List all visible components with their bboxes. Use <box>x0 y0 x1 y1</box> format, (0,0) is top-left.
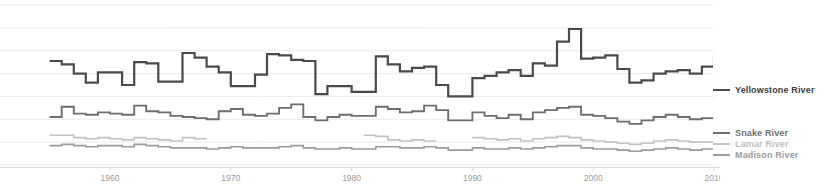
series-line-madison-river <box>50 144 713 151</box>
series-line-snake-river <box>50 104 713 124</box>
legend-label-madison-river: Madison River <box>735 150 798 160</box>
x-axis-canvas: 196019701980199020002010 <box>0 166 720 195</box>
x-tick-label-1970: 1970 <box>221 173 240 183</box>
legend-label-yellowstone-river: Yellowstone River <box>735 85 815 95</box>
legend-item-snake-river[interactable]: Snake River <box>713 128 788 138</box>
series-line-lamar-river <box>472 136 713 144</box>
legend-item-lamar-river[interactable]: Lamar River <box>713 139 789 149</box>
legend-item-yellowstone-river[interactable]: Yellowstone River <box>713 85 815 95</box>
x-tick-label-1980: 1980 <box>342 173 361 183</box>
series-line-lamar-river <box>364 135 437 141</box>
legend-label-snake-river: Snake River <box>735 128 788 138</box>
x-tick-label-1990: 1990 <box>463 173 482 183</box>
series-line-yellowstone-river <box>50 29 713 96</box>
legend-swatch-snake-river <box>713 132 730 135</box>
series-line-lamar-river <box>50 135 207 141</box>
legend-label-lamar-river: Lamar River <box>735 139 789 149</box>
chart-legend: Yellowstone River Snake River Lamar Rive… <box>707 0 825 195</box>
x-tick-label-2000: 2000 <box>584 173 603 183</box>
step-chart-figure: 196019701980199020002010 Yellowstone Riv… <box>0 0 825 195</box>
chart-canvas <box>0 0 713 170</box>
legend-swatch-yellowstone-river <box>713 89 730 92</box>
legend-item-madison-river[interactable]: Madison River <box>713 150 798 160</box>
legend-swatch-lamar-river <box>713 143 730 146</box>
legend-swatch-madison-river <box>713 154 730 157</box>
x-axis: 196019701980199020002010 <box>0 166 720 195</box>
x-tick-label-1960: 1960 <box>101 173 120 183</box>
chart-plot-area <box>0 0 713 170</box>
